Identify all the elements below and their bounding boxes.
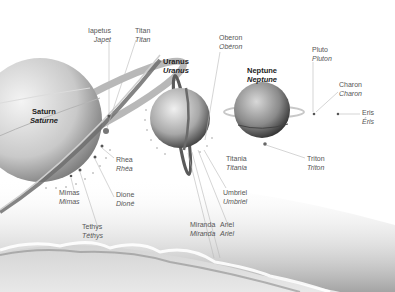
triton-label: Triton Triton (307, 154, 325, 172)
dione-label: Dione Dioné (116, 190, 134, 208)
tethys-moon (79, 169, 82, 172)
uranus-label: Uranus Uranus (163, 57, 189, 75)
saturn-label: Saturn Saturne (30, 107, 58, 125)
tethys-label: Tethys Téthys (82, 222, 103, 240)
solar-system-diagram: Saturn Saturne Uranus Uranus Neptune Nep… (0, 0, 395, 292)
iapetus-label: Iapetus Japet (88, 26, 111, 44)
iapetus-moon (107, 114, 110, 117)
neptune-label: Neptune Neptune (247, 66, 277, 84)
dione-moon (94, 156, 97, 159)
oberon-label: Oberon Obéron (219, 33, 242, 51)
rhea-label: Rhea Rhéa (116, 155, 133, 173)
mimas-moon (70, 175, 73, 178)
titan-moon (103, 128, 109, 134)
pluto-label: Pluto Pluton (312, 45, 332, 63)
neptune-planet (234, 82, 290, 138)
mimas-label: Mimas Mimas (59, 188, 80, 206)
eris-label: Eris Éris (362, 108, 374, 126)
miranda-label: Miranda Miranda (190, 220, 215, 238)
rhea-moon (101, 145, 104, 148)
pluto-body (313, 113, 316, 116)
charon-label: Charon Charon (339, 80, 362, 98)
titan-label: Titan Titan (135, 26, 151, 44)
diagram-artwork (0, 0, 395, 292)
ariel-label: Ariel Ariel (220, 220, 234, 238)
titania-label: Titania Titania (226, 154, 247, 172)
umbriel-label: Umbriel Umbriel (223, 188, 247, 206)
eris-body (337, 113, 340, 116)
uranus-planet (150, 88, 210, 148)
triton-leader-line (266, 145, 305, 158)
